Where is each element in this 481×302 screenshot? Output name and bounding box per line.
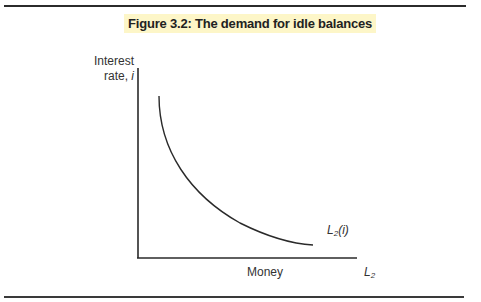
x-axis-label: Money <box>247 265 283 279</box>
demand-curve <box>159 96 313 245</box>
x-axis-variable: L2 <box>364 265 375 280</box>
bottom-rule <box>4 296 464 298</box>
plot-area <box>0 0 481 302</box>
curve-label: L2(i) <box>327 223 349 238</box>
